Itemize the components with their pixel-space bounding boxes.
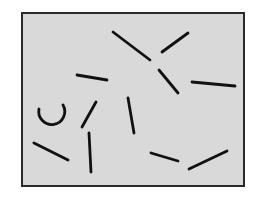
figure-stage — [0, 0, 256, 199]
line-segment — [89, 133, 91, 172]
stimulus-canvas — [0, 0, 256, 199]
